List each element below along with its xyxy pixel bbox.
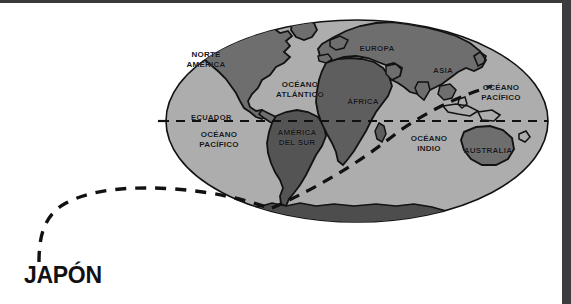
route-line-from-japan	[39, 188, 272, 262]
continent-greenland	[291, 20, 317, 40]
figure-canvas: NORTE AMÉRICA EUROPA ASIA ÁFRICA AMÉRICA…	[0, 0, 571, 304]
continent-antarctica	[258, 203, 446, 223]
origin-country-label: JAPÓN	[24, 262, 102, 289]
scan-artifact-right-bar	[562, 0, 571, 304]
world-map-graphic	[0, 0, 571, 304]
